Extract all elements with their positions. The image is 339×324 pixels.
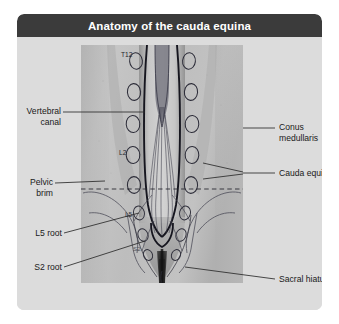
figure-title-bar: Anatomy of the cauda equina [17,14,322,37]
label-l5-root-line1: L5 root [17,228,62,239]
label-cauda-equina-line1: Cauda equina [279,168,322,179]
radiograph-image: T12 L2 L5 S2 [81,45,243,283]
label-conus-medullaris-line1: Conus [279,122,318,133]
label-sacral-hiatus: Sacral hiatus [279,274,322,285]
label-sacral-hiatus-line1: Sacral hiatus [279,274,322,285]
label-vertebral-canal-line2: canal [17,117,61,128]
level-marker-s2-text: S2 [133,245,141,252]
label-pelvic-brim-line2: brim [17,188,53,199]
label-s2-root: S2 root [17,262,62,273]
label-conus-medullaris: Conus medullaris [279,122,318,143]
label-cauda-equina: Cauda equina [279,168,322,179]
label-s2-root-line1: S2 root [17,262,62,273]
level-marker-l5-text: L5 [125,211,133,218]
label-vertebral-canal: Vertebral canal [17,106,61,127]
level-marker-t12-text: T12 [121,51,133,58]
label-l5-root: L5 root [17,228,62,239]
anatomy-figure-card: Anatomy of the cauda equina [17,14,322,310]
label-vertebral-canal-line1: Vertebral [17,106,61,117]
figure-card-body: T12 L2 L5 S2 [17,37,322,310]
label-pelvic-brim: Pelvic brim [17,177,53,198]
label-pelvic-brim-line1: Pelvic [17,177,53,188]
lumbosacral-radiograph: T12 L2 L5 S2 [81,45,243,283]
figure-title: Anatomy of the cauda equina [88,20,251,32]
level-marker-l2-text: L2 [119,149,127,156]
label-conus-medullaris-line2: medullaris [279,133,318,144]
